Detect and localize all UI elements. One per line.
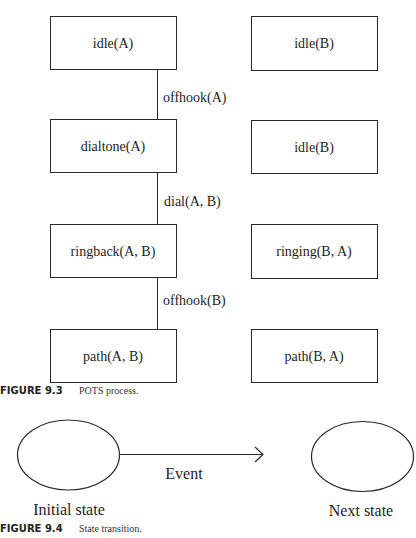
figure-number: FIGURE 9.3	[0, 385, 63, 396]
state-label: ringback(A, B)	[71, 244, 156, 260]
initial-state-ellipse	[18, 420, 120, 490]
event-label: Event	[165, 465, 203, 482]
initial-state-label: Initial state	[33, 501, 105, 518]
state-label: idle(A)	[93, 36, 134, 52]
transition-label: offhook(B)	[163, 293, 226, 309]
state-label: idle(B)	[294, 140, 334, 156]
state-label: path(B, A)	[284, 349, 343, 365]
figure-caption-text: State transition.	[79, 523, 142, 534]
state-label: path(A, B)	[83, 349, 143, 365]
figure-number: FIGURE 9.4	[0, 523, 63, 534]
transition-label: offhook(A)	[163, 90, 227, 106]
figure-9-4-labels: Event Initial state Next state	[33, 465, 393, 519]
transition-label: dial(A, B)	[164, 194, 221, 210]
state-label: dialtone(A)	[81, 139, 146, 155]
figure-9-3-caption: FIGURE 9.3 POTS process.	[0, 385, 138, 396]
next-state-ellipse	[312, 422, 414, 492]
state-label: idle(B)	[294, 36, 334, 52]
figure-caption-text: POTS process.	[79, 385, 138, 396]
figure-9-4-caption: FIGURE 9.4 State transition.	[0, 523, 142, 534]
figure-9-4-state-transition	[18, 420, 414, 492]
state-label: ringing(B, A)	[276, 244, 352, 260]
transition-labels: offhook(A) dial(A, B) offhook(B)	[163, 90, 227, 309]
figures-canvas: idle(A) dialtone(A) ringback(A, B) path(…	[0, 0, 416, 538]
next-state-label: Next state	[329, 502, 393, 519]
